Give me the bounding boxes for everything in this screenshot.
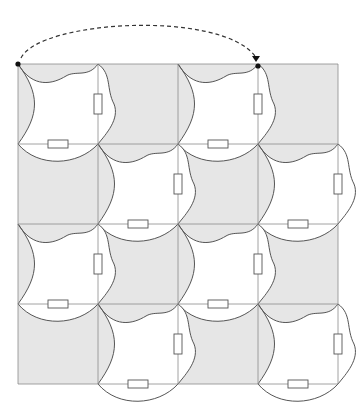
arrowhead-icon (252, 56, 260, 62)
start-node (15, 61, 20, 66)
resistor-vertical (254, 94, 262, 114)
resistor-horizontal (48, 140, 68, 148)
resistor-horizontal (208, 140, 228, 148)
resistor-horizontal (128, 220, 148, 228)
resistor-horizontal (48, 300, 68, 308)
resistor-vertical (254, 254, 262, 274)
resistor-vertical (174, 334, 182, 354)
resistor-horizontal (288, 220, 308, 228)
resistor-horizontal (128, 380, 148, 388)
resistor-vertical (94, 94, 102, 114)
resistor-horizontal (208, 300, 228, 308)
resistor-vertical (334, 334, 342, 354)
end-node (255, 63, 260, 68)
resistor-vertical (174, 174, 182, 194)
resistor-vertical (94, 254, 102, 274)
translation-arrow (21, 25, 255, 58)
tiling-diagram (0, 0, 356, 402)
resistor-horizontal (288, 380, 308, 388)
resistor-vertical (334, 174, 342, 194)
